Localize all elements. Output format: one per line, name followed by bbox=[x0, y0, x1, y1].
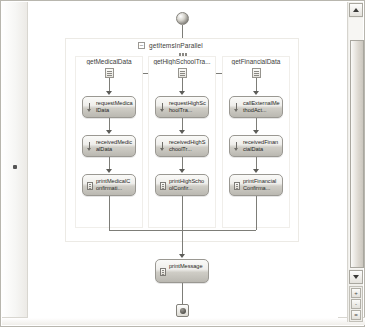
arrow-b0-0 bbox=[106, 91, 112, 95]
code-activity-icon-b2-2 bbox=[233, 181, 241, 191]
scroll-up-button[interactable] bbox=[349, 3, 363, 17]
arrow-b1-1 bbox=[179, 130, 185, 134]
activity-b2-2[interactable]: printFinancialConfirma... bbox=[229, 174, 283, 196]
send-activity-icon-b1-0 bbox=[159, 103, 167, 113]
code-activity-icon-b1-2 bbox=[159, 181, 167, 191]
scrollbar-track[interactable] bbox=[349, 18, 363, 269]
start-terminator-icon[interactable] bbox=[176, 12, 189, 25]
sequence-branch-2-title: getFinancialData bbox=[222, 58, 290, 65]
connector-b2-1 bbox=[256, 118, 257, 130]
left-resize-handle[interactable] bbox=[13, 165, 17, 169]
activity-b1-0[interactable]: requestHighSchoolTra... bbox=[155, 96, 209, 118]
designer-frame: – getItemsInParallel getMedicalData requ… bbox=[0, 0, 365, 327]
sequence-branch-1-title: getHighSchoolTra... bbox=[147, 58, 217, 65]
activity-b2-1[interactable]: receivedFinancialData bbox=[229, 135, 283, 157]
arrow-b2-1 bbox=[253, 130, 259, 134]
parallel-expander-icon[interactable]: – bbox=[138, 42, 145, 49]
arrow-b2-0 bbox=[253, 91, 259, 95]
activity-b1-2[interactable]: printHighSchoolConfir... bbox=[155, 174, 209, 196]
connector-join-stem bbox=[182, 230, 183, 254]
activity-b1-0-label: requestHighSchoolTra... bbox=[169, 100, 206, 114]
activity-b2-0-label: callExternalMethodAct... bbox=[243, 100, 280, 114]
connector-b0-end bbox=[109, 196, 110, 230]
connector-b0-1 bbox=[109, 118, 110, 130]
arrow-b1-0 bbox=[179, 91, 185, 95]
parallel-activity-label: getItemsInParallel bbox=[149, 42, 203, 49]
connector-final-to-end bbox=[182, 283, 183, 304]
activity-b0-0[interactable]: requestMedicalData bbox=[82, 96, 136, 118]
activity-b0-2[interactable]: printMedicalConfirmati... bbox=[82, 174, 136, 196]
activity-b1-1[interactable]: receivedHighSchoolTr... bbox=[155, 135, 209, 157]
activity-b0-2-label: printMedicalConfirmati... bbox=[96, 178, 133, 192]
vertical-scrollbar[interactable]: + - = bbox=[347, 2, 363, 322]
arrow-b0-1 bbox=[106, 130, 112, 134]
connector-b1-1 bbox=[182, 118, 183, 130]
zoom-in-button[interactable]: + bbox=[351, 288, 361, 298]
activity-b0-0-label: requestMedicalData bbox=[96, 100, 133, 114]
activity-b1-1-label: receivedHighSchoolTr... bbox=[169, 139, 206, 153]
receive-activity-icon-b0-1 bbox=[86, 142, 94, 152]
sequence-icon-1 bbox=[178, 68, 187, 78]
left-gutter bbox=[2, 2, 28, 322]
connector-b1-end bbox=[182, 196, 183, 230]
zoom-out-button[interactable]: - bbox=[351, 299, 361, 309]
zoom-controls-group[interactable]: + - = bbox=[349, 286, 363, 322]
connector-b2-end bbox=[256, 196, 257, 230]
arrow-b0-2 bbox=[106, 169, 112, 173]
scroll-down-button[interactable] bbox=[349, 270, 363, 284]
receive-activity-icon-b2-1 bbox=[233, 142, 241, 152]
workflow-designer-window: – getItemsInParallel getMedicalData requ… bbox=[0, 0, 365, 327]
activity-b0-1[interactable]: receivedMedicalData bbox=[82, 135, 136, 157]
activity-final-label: printMessage bbox=[169, 263, 206, 270]
arrow-b1-2 bbox=[179, 169, 185, 173]
send-activity-icon-b2-0 bbox=[233, 103, 241, 113]
arrow-final bbox=[179, 254, 185, 258]
connector-b0-2 bbox=[109, 157, 110, 169]
send-activity-icon-b0-0 bbox=[86, 103, 94, 113]
activity-b1-2-label: printHighSchoolConfir... bbox=[169, 178, 206, 192]
sequence-icon-0 bbox=[105, 68, 114, 78]
activity-b2-2-label: printFinancialConfirma... bbox=[243, 178, 280, 192]
end-terminator-icon[interactable] bbox=[176, 304, 189, 317]
activity-final[interactable]: printMessage bbox=[155, 259, 209, 283]
bottom-band bbox=[2, 317, 365, 325]
connector-b0-0 bbox=[109, 78, 110, 91]
zoom-fit-button[interactable]: = bbox=[351, 310, 361, 320]
code-activity-icon-b0-2 bbox=[86, 181, 94, 191]
sequence-icon-2 bbox=[252, 68, 261, 78]
connector-b2-2 bbox=[256, 157, 257, 169]
code-activity-icon-final bbox=[159, 267, 167, 277]
activity-b0-1-label: receivedMedicalData bbox=[96, 139, 133, 153]
connector-b2-0 bbox=[256, 78, 257, 91]
receive-activity-icon-b1-1 bbox=[159, 142, 167, 152]
workflow-canvas[interactable]: – getItemsInParallel getMedicalData requ… bbox=[28, 8, 338, 318]
connector-b1-2 bbox=[182, 157, 183, 169]
sequence-branch-0-title: getMedicalData bbox=[75, 58, 143, 65]
scrollbar-thumb[interactable] bbox=[350, 40, 364, 268]
arrow-b2-2 bbox=[253, 169, 259, 173]
connector-b1-0 bbox=[182, 78, 183, 91]
activity-b2-0[interactable]: callExternalMethodAct... bbox=[229, 96, 283, 118]
activity-b2-1-label: receivedFinancialData bbox=[243, 139, 280, 153]
